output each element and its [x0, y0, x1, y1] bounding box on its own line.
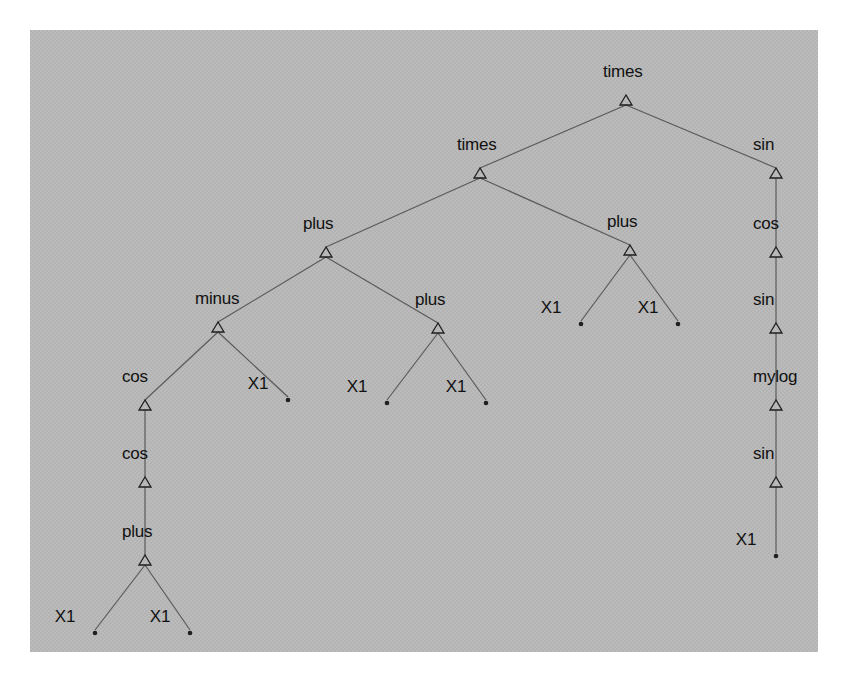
tree-edge	[387, 333, 438, 400]
function-node-label: cos	[753, 215, 779, 232]
tree-plot-panel: timestimessinpluspluscosminusplusX1X1sin…	[30, 30, 818, 652]
terminal-node-marker[interactable]	[676, 322, 681, 327]
function-node-marker[interactable]	[624, 245, 636, 255]
function-node-marker[interactable]	[320, 247, 332, 257]
tree-edge	[95, 565, 145, 630]
function-node-marker[interactable]	[770, 247, 782, 257]
function-node-label: minus	[195, 290, 239, 307]
function-node-label: plus	[415, 291, 445, 308]
terminal-node-label: X1	[541, 299, 561, 316]
tree-edge	[326, 178, 480, 247]
function-node-marker[interactable]	[770, 323, 782, 333]
function-node-label: plus	[303, 215, 333, 232]
tree-graphics	[30, 30, 818, 652]
node-marker-layer	[93, 95, 782, 635]
terminal-node-label: X1	[347, 378, 367, 395]
terminal-node-marker[interactable]	[93, 631, 98, 636]
terminal-node-marker[interactable]	[774, 554, 779, 559]
function-node-marker[interactable]	[139, 555, 151, 565]
terminal-node-marker[interactable]	[484, 401, 489, 406]
terminal-node-marker[interactable]	[385, 401, 390, 406]
function-node-marker[interactable]	[139, 477, 151, 487]
terminal-node-label: X1	[248, 375, 268, 392]
tree-edge	[581, 255, 630, 321]
function-node-label: plus	[607, 213, 637, 230]
function-node-label: sin	[753, 291, 774, 308]
function-node-label: cos	[122, 445, 148, 462]
tree-edge	[480, 105, 626, 168]
function-node-marker[interactable]	[770, 168, 782, 178]
function-node-marker[interactable]	[770, 400, 782, 410]
function-node-label: sin	[753, 445, 774, 462]
function-node-label: sin	[753, 136, 774, 153]
terminal-node-label: X1	[150, 608, 170, 625]
terminal-node-marker[interactable]	[286, 398, 291, 403]
figure-canvas: timestimessinpluspluscosminusplusX1X1sin…	[0, 0, 850, 680]
terminal-node-label: X1	[55, 608, 75, 625]
function-node-label: mylog	[753, 368, 797, 385]
function-node-marker[interactable]	[620, 95, 632, 105]
function-node-marker[interactable]	[139, 400, 151, 410]
terminal-node-marker[interactable]	[188, 631, 193, 636]
tree-edge	[145, 332, 218, 400]
function-node-label: times	[603, 63, 643, 80]
function-node-marker[interactable]	[432, 323, 444, 333]
function-node-label: plus	[122, 523, 152, 540]
terminal-node-label: X1	[446, 378, 466, 395]
function-node-label: cos	[122, 368, 148, 385]
edge-layer	[95, 105, 776, 630]
terminal-node-label: X1	[736, 531, 756, 548]
function-node-marker[interactable]	[212, 322, 224, 332]
function-node-marker[interactable]	[474, 168, 486, 178]
function-node-marker[interactable]	[770, 477, 782, 487]
terminal-node-marker[interactable]	[579, 322, 584, 327]
function-node-label: times	[457, 136, 497, 153]
terminal-node-label: X1	[638, 299, 658, 316]
